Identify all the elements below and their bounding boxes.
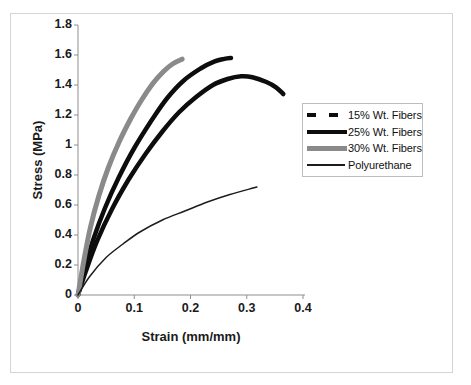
y-tick-label: 1.4 <box>26 77 72 92</box>
y-tick-label: 1.6 <box>26 47 72 62</box>
legend-item: 25% Wt. Fibers <box>303 124 422 141</box>
legend-line <box>307 146 347 151</box>
x-tick-label: 0.4 <box>285 301 321 316</box>
legend: 15% Wt. Fibers25% Wt. Fibers30% Wt. Fibe… <box>302 103 423 177</box>
series-curve-25-wt-fibers <box>78 58 231 295</box>
series-curve-15-wt-fibers <box>78 76 283 295</box>
legend-line <box>307 113 341 117</box>
y-tick-label: 0 <box>26 287 72 302</box>
legend-item: 15% Wt. Fibers <box>303 107 422 124</box>
legend-swatch-thin <box>307 164 348 166</box>
x-tick-label: 0.3 <box>229 301 265 316</box>
x-axis-title: Strain (mm/mm) <box>142 329 241 344</box>
legend-label: 30% Wt. Fibers <box>348 142 422 154</box>
y-tick-label: 0.4 <box>26 227 72 242</box>
y-tick-label: 0.2 <box>26 257 72 272</box>
legend-label: Polyurethane <box>348 159 412 171</box>
legend-line <box>307 164 345 166</box>
legend-line <box>307 130 347 135</box>
y-axis-title: Stress (MPa) <box>30 121 45 200</box>
x-tick-label: 0 <box>60 301 96 316</box>
y-tick-label: 1.8 <box>26 17 72 32</box>
legend-swatch-dashed-thick <box>307 113 348 117</box>
legend-item: Polyurethane <box>303 157 422 174</box>
legend-swatch-solid-thick <box>307 146 348 151</box>
legend-item: 30% Wt. Fibers <box>303 140 422 157</box>
x-tick-label: 0.2 <box>173 301 209 316</box>
x-tick-label: 0.1 <box>116 301 152 316</box>
legend-swatch-solid-thick <box>307 130 348 135</box>
legend-label: 15% Wt. Fibers <box>348 109 422 121</box>
legend-label: 25% Wt. Fibers <box>348 126 422 138</box>
chart-figure: 00.20.40.60.811.21.41.61.8 00.10.20.30.4… <box>0 0 471 385</box>
